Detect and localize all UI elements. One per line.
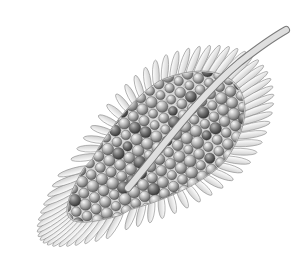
bead	[277, 101, 280, 104]
bead	[192, 217, 195, 220]
sphere	[52, 70, 62, 80]
bead	[45, 104, 48, 107]
bead	[124, 233, 127, 236]
sphere	[183, 209, 193, 219]
sphere	[279, 108, 289, 118]
bead	[32, 152, 35, 155]
sphere	[193, 73, 204, 84]
bead	[223, 219, 226, 222]
sphere	[207, 25, 217, 35]
bead	[291, 64, 294, 67]
sphere	[75, 90, 85, 100]
sphere	[164, 147, 174, 157]
sphere	[175, 87, 186, 98]
bead	[136, 248, 139, 251]
sphere	[111, 201, 121, 211]
sphere	[16, 108, 28, 120]
bead	[165, 23, 168, 26]
bead	[261, 202, 264, 205]
bead	[298, 110, 301, 113]
sphere	[184, 145, 193, 154]
sphere	[89, 52, 101, 64]
sphere	[246, 234, 257, 245]
sphere	[21, 68, 32, 79]
bead	[191, 206, 194, 209]
sphere	[108, 254, 118, 264]
sphere	[270, 115, 280, 125]
bead	[114, 89, 117, 92]
bead	[106, 247, 109, 250]
bead	[290, 53, 293, 56]
sphere	[112, 62, 121, 71]
sphere	[68, 108, 78, 118]
bead	[49, 62, 52, 65]
bead	[281, 199, 284, 202]
bead	[126, 244, 129, 247]
bead	[70, 135, 73, 138]
sphere	[76, 101, 87, 112]
sphere	[257, 174, 269, 186]
bead	[144, 230, 147, 233]
bead	[227, 38, 230, 41]
sphere	[159, 113, 169, 123]
sphere	[19, 121, 29, 131]
sphere	[83, 82, 94, 93]
bead	[244, 12, 247, 15]
bead	[100, 61, 103, 64]
bead	[248, 251, 251, 254]
bead	[68, 124, 71, 127]
bead	[72, 147, 75, 150]
sphere	[86, 104, 98, 116]
sphere	[25, 91, 35, 101]
sphere	[196, 161, 206, 171]
bead	[167, 250, 170, 253]
bead	[41, 145, 44, 148]
bead	[170, 58, 173, 61]
sphere	[175, 227, 185, 237]
bead	[95, 27, 98, 30]
bead	[138, 44, 141, 47]
bead	[185, 236, 188, 239]
bead	[134, 22, 137, 25]
bead	[252, 209, 255, 212]
sphere	[168, 181, 179, 192]
sphere	[166, 19, 175, 28]
sphere	[235, 230, 247, 242]
sphere	[136, 243, 148, 255]
bead	[258, 39, 261, 42]
sphere	[274, 214, 284, 224]
sphere	[289, 187, 301, 199]
sphere	[34, 84, 44, 94]
bead	[248, 186, 251, 189]
sphere	[248, 171, 258, 181]
sphere	[172, 215, 184, 227]
bead	[221, 208, 224, 211]
sphere	[257, 164, 267, 174]
bead	[25, 246, 28, 249]
sphere	[17, 174, 26, 183]
sphere	[46, 100, 55, 109]
sphere	[263, 209, 274, 220]
bead	[83, 87, 86, 90]
sphere	[245, 224, 255, 234]
bead	[135, 237, 138, 240]
sphere	[151, 131, 162, 142]
sphere	[275, 150, 285, 160]
bead	[122, 221, 125, 224]
bead	[26, 182, 29, 185]
bead	[109, 54, 112, 57]
bead	[263, 149, 266, 152]
bead	[30, 141, 33, 144]
bead	[295, 87, 298, 90]
sphere	[177, 249, 189, 261]
sphere	[225, 86, 236, 97]
sphere	[187, 27, 197, 37]
sphere	[254, 216, 264, 226]
sphere	[208, 36, 219, 47]
sphere	[287, 100, 299, 112]
bead	[243, 216, 246, 219]
bead	[300, 57, 303, 60]
sphere	[117, 31, 127, 41]
bead	[276, 25, 279, 28]
bead	[148, 49, 151, 52]
